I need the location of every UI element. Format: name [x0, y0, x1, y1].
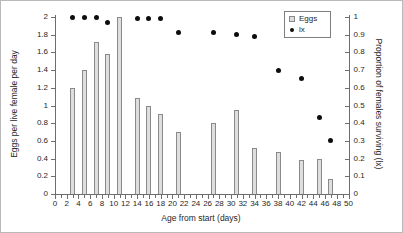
right-y-tick-label: 0.7: [354, 66, 365, 74]
right-axis-line: [349, 15, 350, 195]
left-y-tick: [51, 159, 55, 160]
x-tick: [284, 195, 285, 198]
x-tick-label: 16: [144, 200, 153, 208]
left-y-tick: [51, 106, 55, 107]
eggs-bar: [146, 106, 151, 195]
right-y-tick-label: 0.4: [354, 119, 365, 127]
left-y-tick-label: 1.8: [37, 31, 48, 39]
lx-dot: [70, 15, 75, 20]
eggs-bar: [94, 42, 99, 194]
right-y-tick-label: 0.2: [354, 155, 365, 163]
eggs-bar: [135, 98, 140, 194]
left-y-tick-label: 1: [44, 102, 48, 110]
x-tick-label: 10: [109, 200, 118, 208]
x-tick-label: 26: [203, 200, 212, 208]
x-tick-label: 0: [53, 200, 57, 208]
eggs-bar-swatch-icon: [289, 16, 295, 22]
x-tick: [296, 195, 297, 198]
left-y-tick-label: 0: [44, 190, 48, 198]
x-tick-label: 22: [180, 200, 189, 208]
right-y-tick: [345, 35, 349, 36]
x-tick-label: 32: [238, 200, 247, 208]
right-y-tick: [345, 106, 349, 107]
x-tick: [319, 195, 320, 198]
legend: Eggs lx: [284, 11, 331, 38]
right-y-tick: [345, 141, 349, 142]
eggs-bar: [299, 160, 304, 194]
x-tick-label: 6: [88, 200, 92, 208]
x-tick: [190, 195, 191, 198]
left-y-tick-label: 0.6: [37, 137, 48, 145]
eggs-bar: [105, 54, 110, 194]
x-tick-label: 34: [250, 200, 259, 208]
right-y-tick: [345, 176, 349, 177]
x-tick: [307, 195, 308, 198]
x-tick-label: 50: [344, 200, 353, 208]
x-tick: [73, 195, 74, 198]
x-tick-label: 18: [156, 200, 165, 208]
right-y-tick-label: 0.5: [354, 102, 365, 110]
right-y-tick: [345, 159, 349, 160]
left-axis-line: [55, 15, 56, 195]
right-y-tick: [345, 52, 349, 53]
left-y-tick-label: 1.2: [37, 84, 48, 92]
eggs-bar: [176, 132, 181, 194]
x-tick: [131, 195, 132, 198]
x-tick-label: 2: [65, 200, 69, 208]
left-y-tick: [51, 176, 55, 177]
legend-label-eggs: Eggs: [299, 15, 317, 23]
eggs-bar: [82, 70, 87, 194]
left-y-tick: [51, 70, 55, 71]
x-axis-title: Age from start (days): [161, 214, 240, 223]
x-tick: [202, 195, 203, 198]
lx-dot: [252, 34, 257, 39]
lx-dot: [158, 16, 163, 21]
x-tick-label: 24: [191, 200, 200, 208]
x-tick: [249, 195, 250, 198]
x-tick: [260, 195, 261, 198]
left-y-tick: [51, 123, 55, 124]
x-tick: [331, 195, 332, 198]
right-y-tick: [345, 123, 349, 124]
right-y-tick-label: 0: [354, 190, 358, 198]
eggs-bar: [70, 88, 75, 194]
lx-dot: [328, 138, 333, 143]
x-tick-label: 8: [100, 200, 104, 208]
left-y-tick-label: 2: [44, 13, 48, 21]
eggs-bar: [158, 114, 163, 194]
left-y-tick: [51, 35, 55, 36]
x-tick-label: 38: [274, 200, 283, 208]
legend-item-lx: lx: [289, 26, 326, 34]
left-y-axis-title: Eggs per live female per day: [10, 50, 19, 158]
left-y-tick-label: 0.2: [37, 172, 48, 180]
chart-figure: Eggs per live female per day Proportion …: [0, 0, 403, 233]
lx-dot: [94, 15, 99, 20]
lx-dot: [317, 115, 322, 120]
left-y-tick-label: 0.4: [37, 155, 48, 163]
x-tick: [96, 195, 97, 198]
eggs-bar: [117, 17, 122, 194]
lx-dot: [146, 16, 151, 21]
lx-dot-swatch-icon: [290, 28, 294, 32]
lx-dot: [234, 32, 239, 37]
eggs-bar: [252, 148, 257, 194]
left-y-tick: [51, 52, 55, 53]
x-tick: [213, 195, 214, 198]
x-tick: [343, 195, 344, 198]
x-tick-label: 40: [285, 200, 294, 208]
x-tick-label: 48: [332, 200, 341, 208]
right-y-tick-label: 0.6: [354, 84, 365, 92]
left-y-tick: [51, 88, 55, 89]
eggs-bar: [328, 179, 333, 194]
x-tick-label: 36: [262, 200, 271, 208]
right-y-tick-label: 0.3: [354, 137, 365, 145]
x-tick: [120, 195, 121, 198]
left-y-tick-label: 1.4: [37, 66, 48, 74]
eggs-bar: [317, 159, 322, 194]
x-tick: [225, 195, 226, 198]
x-tick: [84, 195, 85, 198]
x-tick: [61, 195, 62, 198]
x-tick: [155, 195, 156, 198]
left-y-tick: [51, 17, 55, 18]
lx-dot: [211, 30, 216, 35]
